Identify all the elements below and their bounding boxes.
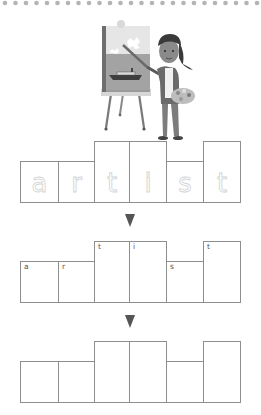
hint-box-2[interactable]: r (58, 261, 95, 303)
write-box-2[interactable] (58, 361, 95, 403)
traced-letter: s (167, 170, 203, 196)
write-box-4[interactable] (129, 341, 167, 403)
write-box-1[interactable] (20, 361, 59, 403)
write-box-5[interactable] (166, 361, 204, 403)
easel-leg-right (139, 94, 144, 128)
hint-letter: r (62, 263, 65, 271)
dotted-border (0, 0, 261, 7)
hint-letter: t (207, 243, 210, 251)
traced-letter: i (130, 170, 166, 196)
hint-letter: s (170, 263, 174, 271)
trace-box-3[interactable]: t (94, 141, 130, 203)
easel-leg-left (106, 94, 111, 128)
trace-box-2[interactable]: r (58, 161, 95, 203)
hint-box-3[interactable]: t (94, 241, 130, 303)
write-box-6[interactable] (203, 341, 241, 403)
hint-letter: a (24, 263, 29, 271)
hint-box-5[interactable]: s (166, 261, 204, 303)
hint-box-6[interactable]: t (203, 241, 241, 303)
trace-box-1[interactable]: a (20, 161, 59, 203)
traced-letter: t (95, 170, 129, 196)
traced-letter: t (204, 170, 240, 196)
write-box-3[interactable] (94, 341, 130, 403)
trace-box-4[interactable]: i (129, 141, 167, 203)
hint-letter: i (133, 243, 135, 251)
down-triangle-icon (125, 214, 135, 227)
easel-leg-back (120, 94, 123, 114)
ship (109, 75, 142, 80)
traced-letter: a (21, 170, 58, 196)
trace-box-5[interactable]: s (166, 161, 204, 203)
hint-box-4[interactable]: i (129, 241, 167, 303)
traced-letter: r (59, 170, 94, 196)
hint-letter: t (98, 243, 101, 251)
hint-box-1[interactable]: a (20, 261, 59, 303)
artist-illustration (95, 12, 215, 140)
down-triangle-icon (125, 315, 135, 328)
trace-box-6[interactable]: t (203, 141, 241, 203)
